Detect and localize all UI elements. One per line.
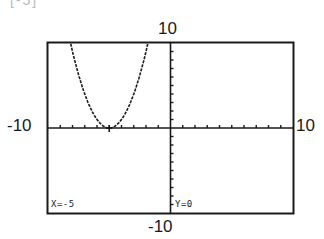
trace-cursor-icon [106, 125, 112, 132]
function-curve [71, 44, 148, 128]
trace-y-readout: Y=0 [175, 199, 193, 209]
trace-x-readout: X=-5 [51, 199, 75, 209]
axes [48, 43, 293, 213]
graph-screen [0, 0, 324, 239]
